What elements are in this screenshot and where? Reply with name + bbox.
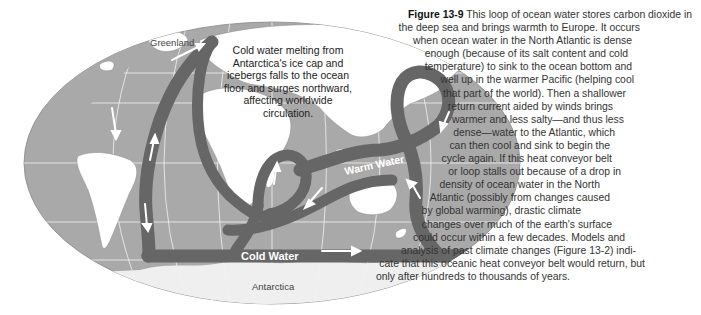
caption-line: dense—water to the Atlantic, which <box>330 126 692 139</box>
caption-line: well up in the warmer Pacific (helping c… <box>330 73 692 86</box>
figure-caption: Figure 13-9 This loop of ocean water sto… <box>330 8 692 283</box>
caption-line: can then cool and sink to begin the <box>330 139 692 152</box>
caption-line: when ocean water in the North Atlantic i… <box>330 34 692 47</box>
caption-line: the deep sea and brings warmth to Europe… <box>330 21 692 34</box>
caption-line: density of ocean water in the North <box>330 178 692 191</box>
caption-line: cate that this oceanic heat conveyor bel… <box>330 257 692 270</box>
caption-line: enough (because of its salt content and … <box>330 47 692 60</box>
caption-line: could occur within a few decades. Models… <box>330 231 692 244</box>
caption-line: changes over much of the earth's surface <box>330 218 692 231</box>
caption-line: Figure 13-9 This loop of ocean water sto… <box>330 8 692 21</box>
caption-line: return current aided by winds brings <box>330 100 692 113</box>
caption-line: only after hundreds to thousands of year… <box>330 270 692 283</box>
caption-line: warmer and less salty—and thus less <box>330 113 692 126</box>
caption-line: that part of the world). Then a shallowe… <box>330 87 692 100</box>
figure-number: Figure 13-9 <box>408 9 463 20</box>
caption-line: Atlantic (possibly from changes caused <box>330 191 692 204</box>
caption-line: by global warming), drastic climate <box>330 204 692 217</box>
caption-line: or loop stalls out because of a drop in <box>330 165 692 178</box>
cold-water-label: Cold Water <box>241 250 299 262</box>
caption-line: analysis of past climate changes (Figure… <box>330 244 692 257</box>
greenland-label: Greenland <box>150 37 194 48</box>
caption-line: temperature) to sink to the ocean bottom… <box>330 60 692 73</box>
antarctica-label: Antarctica <box>252 281 295 292</box>
caption-line: cycle again. If this heat conveyor belt <box>330 152 692 165</box>
